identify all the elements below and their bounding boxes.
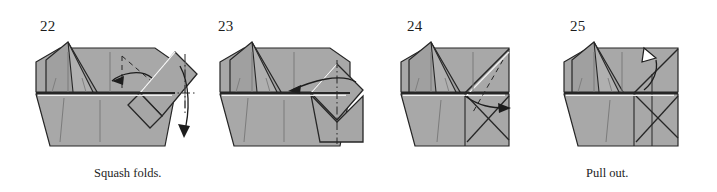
step-panel-23: 23 xyxy=(170,0,355,192)
origami-figure-23 xyxy=(170,38,360,158)
step-number-25: 25 xyxy=(570,18,586,35)
step-caption-22: Squash folds. xyxy=(94,166,161,181)
step-number-22: 22 xyxy=(40,18,56,35)
diagram-page: 22 xyxy=(0,0,717,192)
origami-figure-25 xyxy=(518,38,717,158)
step-caption-25: Pull out. xyxy=(586,166,628,181)
step-panel-24: 24 xyxy=(345,0,530,192)
origami-figure-24 xyxy=(345,38,535,158)
step-number-24: 24 xyxy=(407,18,423,35)
step-panel-25: 25 xyxy=(518,0,717,192)
step-number-23: 23 xyxy=(218,18,234,35)
